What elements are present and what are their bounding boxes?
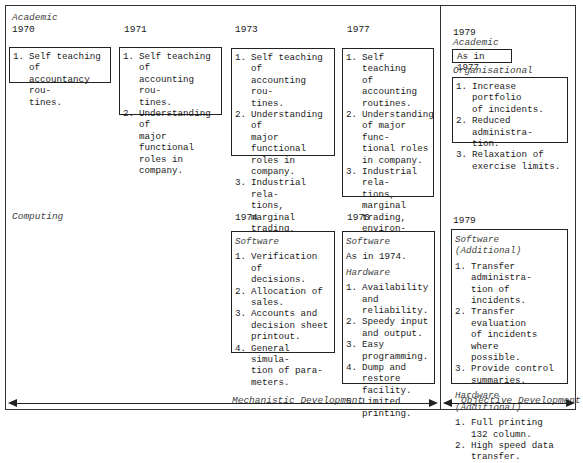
list-item: 3.Relaxation of exercise limits. <box>456 149 564 172</box>
row-label-academic: Academic <box>12 12 58 23</box>
list-item: 3.Accounts and decision sheet printout. <box>235 308 331 342</box>
year-1979-computing: 1979 <box>453 215 476 226</box>
list-item: 2.High speed data transfer. <box>455 440 564 463</box>
computing-1979-box: Software (Additional) 1.Transfer adminis… <box>451 229 568 384</box>
row-label-computing: Computing <box>12 211 63 222</box>
arrow-left-icon <box>443 399 452 407</box>
year-1976: 1976 <box>347 212 370 223</box>
list-item: 2.Understanding of major functional role… <box>235 109 331 177</box>
arrow-right-icon <box>429 399 438 407</box>
academic-1971-box: 1.Self teaching of accounting rou- tines… <box>119 47 222 115</box>
list-item: 1.Availability and reliability. <box>346 282 431 316</box>
software-label: Software <box>346 236 431 247</box>
list-item: 1.Increase portfolio of incidents. <box>456 81 564 115</box>
year-1970: 1970 <box>12 24 35 35</box>
arrow-left-icon <box>8 399 17 407</box>
phase-divider <box>440 5 441 410</box>
list-item: 1.Full printing 132 column. <box>455 417 564 440</box>
objective-arrow-line <box>444 403 571 404</box>
list-item: 4.General simula- tion of para- meters. <box>235 343 331 389</box>
mechanistic-arrow-line <box>10 403 435 404</box>
organisational-label: Organisational <box>453 65 533 76</box>
hardware-label: Hardware <box>346 267 431 278</box>
year-1977: 1977 <box>347 24 370 35</box>
list-item: 1.Transfer administra- tion of incidents… <box>455 261 564 307</box>
list-item: 2.Allocation of sales. <box>235 286 331 309</box>
academic-1973-box: 1.Self teaching of accounting rou- tines… <box>231 48 335 156</box>
computing-1974-box: Software 1.Verification of decisions. 2.… <box>231 231 335 353</box>
list-item: 1.Self teaching of accounting rou- tines… <box>235 52 331 109</box>
organisational-box: 1.Increase portfolio of incidents. 2.Red… <box>452 77 568 143</box>
list-item: 2.Understanding of major functional role… <box>123 108 218 176</box>
software-additional-label: Software (Additional) <box>455 234 564 257</box>
software-value: As in 1974. <box>346 251 431 262</box>
list-item: 4.Dump and restore facility. <box>346 362 431 396</box>
as-in-1977-box: As in 1977 <box>452 49 512 63</box>
year-1973: 1973 <box>235 24 258 35</box>
objective-development-label: Objective Development <box>461 395 581 406</box>
academic-1970-box: 1.Self teaching of accountancy rou- tine… <box>9 47 111 83</box>
list-item: 1.Self teaching of accounting rou- tines… <box>123 51 218 108</box>
objective-academic-label: Academic <box>453 37 499 48</box>
list-item: 2.Reduced administra- tion. <box>456 115 564 149</box>
academic-1977-box: 1.Self teaching of accounting routines. … <box>342 48 434 197</box>
list-item: 2.Understanding of major func- tional ro… <box>346 109 430 166</box>
list-item: 2.Transfer evaluation of incidents where… <box>455 306 564 363</box>
list-item: 1.Self teaching of accounting routines. <box>346 52 430 109</box>
year-1974: 1974 <box>235 212 258 223</box>
list-item: 3.Easy programming. <box>346 339 431 362</box>
software-label: Software <box>235 236 331 247</box>
list-item: 1.Verification of decisions. <box>235 251 331 285</box>
list-item: 3.Provide control summaries. <box>455 363 564 386</box>
arrow-right-icon <box>566 399 575 407</box>
computing-1976-box: Software As in 1974. Hardware 1.Availabi… <box>342 231 435 384</box>
mechanistic-development-label: Mechanistic Development <box>232 395 363 406</box>
year-1971: 1971 <box>124 24 147 35</box>
list-item: 1.Self teaching of accountancy rou- tine… <box>13 51 107 108</box>
list-item: 2.Speedy input and output. <box>346 316 431 339</box>
